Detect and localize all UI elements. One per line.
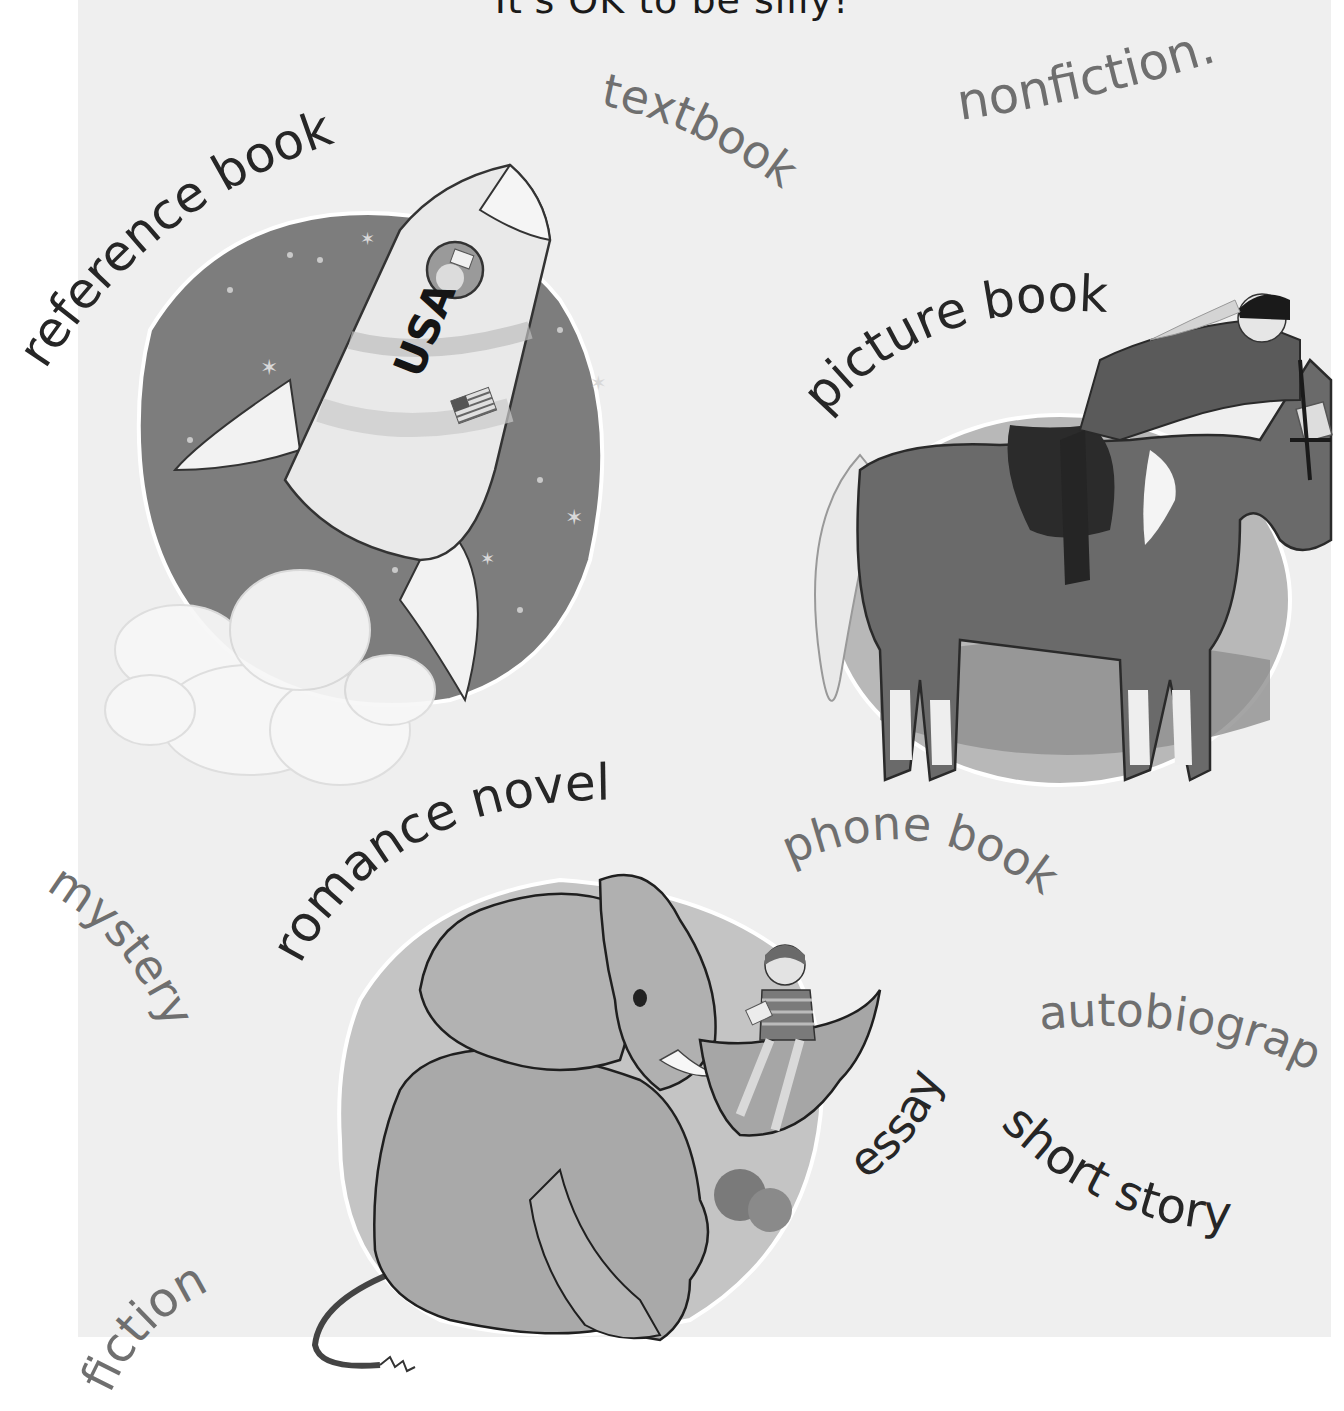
elephant-illustration [315,875,880,1371]
label-short-story: short story [992,1093,1234,1241]
svg-text:✶: ✶ [260,355,278,380]
svg-text:✶: ✶ [480,548,495,569]
label-phone-book: phone book [774,796,1070,905]
elephant-eye [633,989,647,1007]
svg-text:✶: ✶ [360,228,375,249]
label-nonfiction: nonfiction. [953,17,1221,132]
label-textbook: textbook [598,63,808,198]
rocket-illustration: ✶ ✶ ✶ ✶ ✶ USA [105,165,607,785]
label-essay: essay [839,1062,953,1188]
label-mystery: mystery [39,854,205,1035]
label-autobiography: autobiograp [1036,983,1330,1081]
svg-text:✶: ✶ [565,505,583,530]
label-picture-book: picture book [791,265,1109,423]
illustration-stage: ✶ ✶ ✶ ✶ ✶ USA [0,0,1344,1411]
svg-text:✶: ✶ [590,371,607,395]
helmet-icon [1238,294,1290,320]
label-fiction: fiction [69,1250,215,1399]
